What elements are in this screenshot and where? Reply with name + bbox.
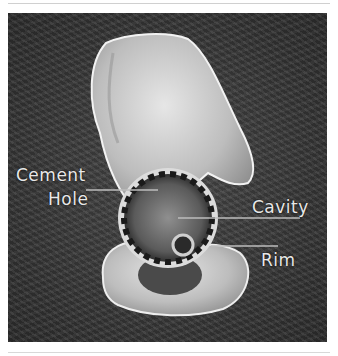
label-rim: Rim bbox=[261, 250, 296, 270]
label-cement: Cement bbox=[16, 165, 86, 185]
bottom-divider bbox=[8, 352, 330, 353]
top-divider bbox=[8, 3, 330, 4]
label-cavity: Cavity bbox=[252, 197, 309, 217]
label-hole: Hole bbox=[48, 189, 88, 209]
anatomy-illustration: Cement Hole Cavity Rim bbox=[8, 13, 327, 342]
